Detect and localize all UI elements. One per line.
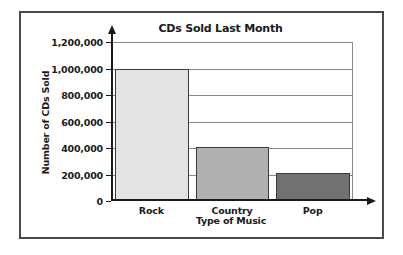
y-axis-line [111, 33, 113, 201]
x-axis-line [111, 199, 369, 201]
x-axis-label-rock: Rock [111, 205, 192, 216]
gridline [111, 42, 353, 43]
y-axis-tick [106, 201, 111, 202]
y-axis-tick-label: 800,000 [61, 90, 103, 101]
x-axis-label-country: Country [192, 205, 273, 216]
y-axis-title: Number of CDs Sold [40, 53, 51, 193]
y-axis-tick-label: 400,000 [61, 143, 103, 154]
bar-country[interactable] [196, 147, 270, 201]
x-axis-title: Type of Music [111, 215, 351, 226]
x-axis-arrow-icon [367, 197, 376, 205]
y-axis-tick-label: 1,200,000 [51, 37, 103, 48]
plot-area: 1,200,0001,000,000800,000600,000400,0002… [111, 42, 353, 201]
chart-title: CDs Sold Last Month [21, 22, 382, 35]
y-axis-tick-label: 200,000 [61, 169, 103, 180]
y-axis-arrow-icon [108, 25, 116, 34]
chart-figure: CDs Sold Last Month Number of CDs Sold T… [19, 11, 384, 239]
x-axis-label-pop: Pop [272, 205, 353, 216]
bar-pop[interactable] [276, 173, 350, 201]
y-axis-tick-label: 1,000,000 [51, 63, 103, 74]
bar-rock[interactable] [115, 69, 189, 202]
y-axis-tick-label: 0 [97, 196, 103, 207]
y-axis-tick-label: 600,000 [61, 116, 103, 127]
